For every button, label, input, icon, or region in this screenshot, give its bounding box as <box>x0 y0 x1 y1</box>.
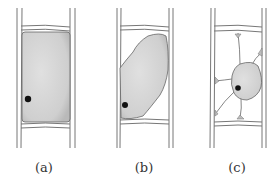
nucleus-c <box>235 85 241 91</box>
cell-b <box>117 8 173 148</box>
cell-a <box>17 8 75 148</box>
panel-label-a: (a) <box>35 160 53 175</box>
nucleus-a <box>25 96 31 102</box>
cell-c <box>210 8 266 148</box>
panel-label-c: (c) <box>228 160 245 175</box>
nucleus-b <box>122 102 128 108</box>
panel-label-b: (b) <box>135 160 153 175</box>
protoplast-c <box>231 62 261 100</box>
protoplast-a <box>22 32 70 122</box>
